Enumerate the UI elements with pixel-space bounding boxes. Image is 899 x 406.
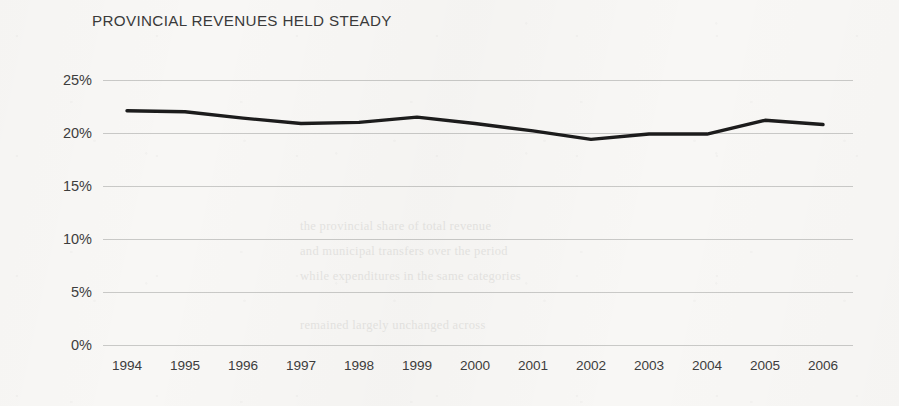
plot-area: 0%5%10%15%20%25% 19941995199619971998199…: [0, 0, 899, 406]
revenue-line-series: [127, 111, 823, 140]
series-layer: [0, 0, 899, 406]
line-chart: PROVINCIAL REVENUES HELD STEADY 0%5%10%1…: [0, 0, 899, 406]
